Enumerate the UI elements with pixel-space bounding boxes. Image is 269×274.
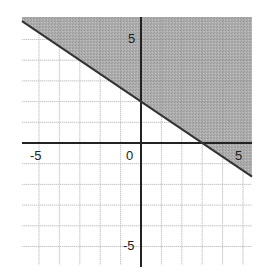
y-tick-label-neg5: -5 bbox=[123, 238, 135, 253]
inequality-graph: -5 0 5 5 -5 bbox=[0, 0, 269, 274]
x-tick-label-zero: 0 bbox=[126, 148, 133, 163]
y-tick-label-pos5: 5 bbox=[128, 31, 135, 46]
x-tick-label-pos5: 5 bbox=[235, 148, 242, 163]
x-tick-label-neg5: -5 bbox=[30, 148, 42, 163]
